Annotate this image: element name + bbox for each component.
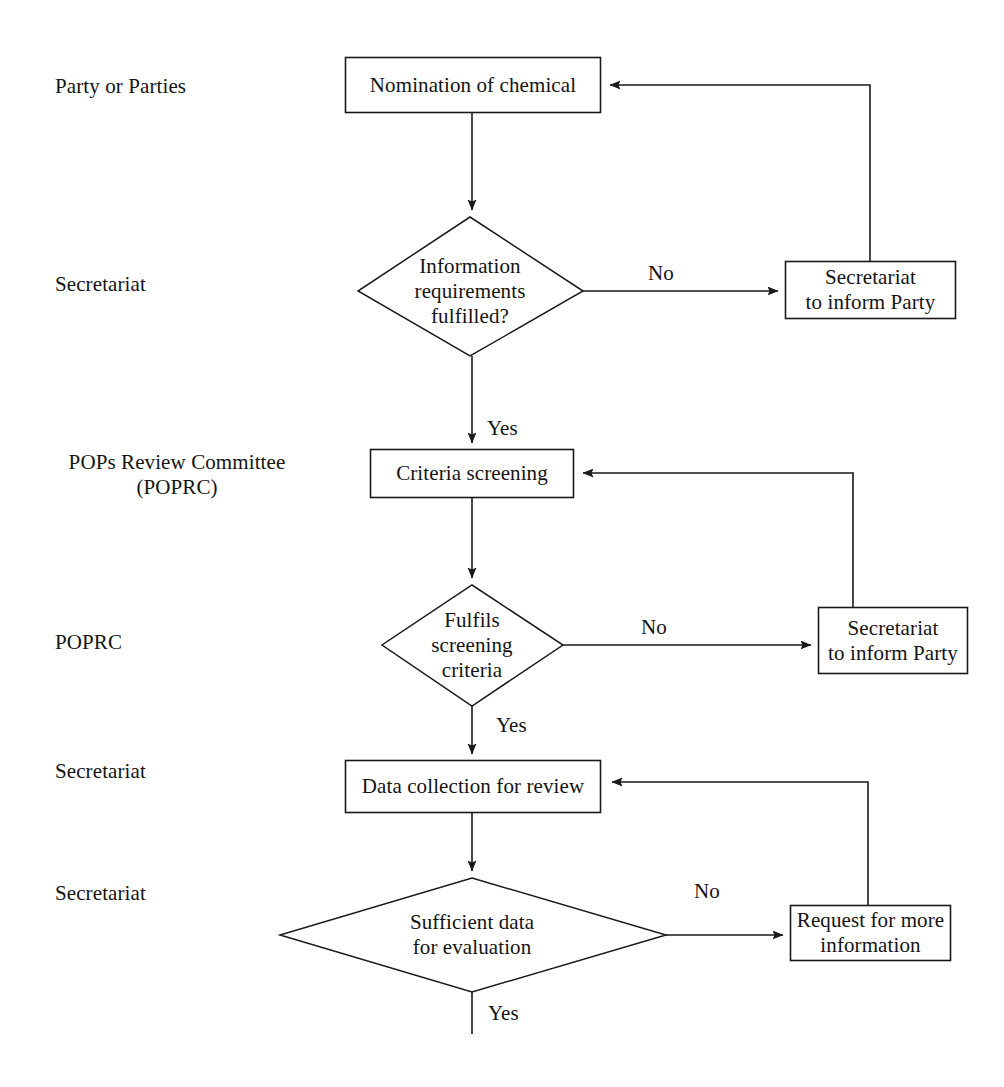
swimlane-label-party-or-parties: Party or Parties	[55, 74, 186, 99]
edge-label-no-2: No	[641, 615, 667, 639]
edge-label-no-1: No	[648, 261, 674, 285]
node-label-fulfils-screening-criteria: Fulfils screening criteria	[394, 604, 550, 686]
node-label-secretariat-to-inform-party-2: Secretariat to inform Party	[820, 608, 966, 673]
edge-label-yes-2: Yes	[496, 713, 527, 737]
edge-label-yes-1: Yes	[487, 416, 518, 440]
swimlane-label-secretariat-1: Secretariat	[55, 272, 146, 297]
swimlane-label-secretariat-3: Secretariat	[55, 881, 146, 906]
swimlane-label-secretariat-2: Secretariat	[55, 759, 146, 784]
flowchart-page: Party or Parties Secretariat POPs Review…	[0, 0, 1004, 1087]
swimlane-label-poprc-committee: POPs Review Committee (POPRC)	[42, 450, 312, 500]
swimlane-label-poprc: POPRC	[55, 630, 122, 655]
connector-request-more-info-loop-to-data-collection	[612, 782, 868, 905]
node-label-data-collection-for-review: Data collection for review	[347, 761, 599, 812]
node-label-secretariat-to-inform-party-1: Secretariat to inform Party	[787, 262, 954, 318]
node-label-nomination-of-chemical: Nomination of chemical	[347, 58, 599, 112]
node-label-criteria-screening: Criteria screening	[372, 450, 572, 497]
node-label-information-requirements-fulfilled: Information requirements fulfilled?	[372, 250, 568, 332]
connector-secretariat2-loop-to-criteria-screening	[583, 473, 853, 607]
connector-secretariat1-loop-to-nomination	[610, 85, 870, 261]
node-label-request-for-more-information: Request for more information	[792, 906, 949, 960]
node-label-sufficient-data-for-evaluation: Sufficient data for evaluation	[352, 906, 592, 964]
edge-label-no-3: No	[694, 879, 720, 903]
edge-label-yes-3: Yes	[488, 1001, 519, 1025]
